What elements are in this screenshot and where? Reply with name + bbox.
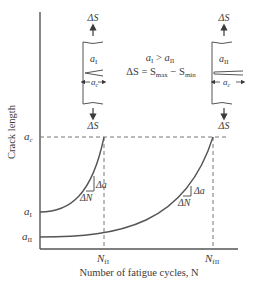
tick-label-aI: aI [24,205,33,219]
curve-specimen-I [40,137,104,212]
tick-label-nf2: NfII [204,252,220,266]
svg-text:ac: ac [91,77,99,88]
specimen-I: ΔS aI ac ΔS [83,12,104,131]
tick-label-ac: ac [24,130,34,144]
curve-specimen-II [40,137,213,237]
delta-n-label-II: ΔN [177,197,192,208]
stress-bottom-label-I: ΔS [87,120,99,131]
delta-n-label-I: ΔN [79,192,94,203]
relation-inequality: aI > aII [146,52,175,65]
svg-text:aII: aII [219,53,229,66]
tick-label-nf1: NfI [96,252,110,266]
fatigue-diagram: ac aI aII NfI NfII Number of fatigue cyc… [0,0,257,286]
svg-text:ac: ac [223,77,231,88]
stress-top-label-II: ΔS [218,12,230,23]
delta-a-label-II: Δa [193,185,205,196]
y-axis-label: Crack length [6,104,17,159]
delta-a-label-I: Δa [95,179,107,190]
specimen-II: ΔS aII ac ΔS [212,12,243,131]
stress-top-label-I: ΔS [87,12,99,23]
x-axis-label: Number of fatigue cycles, N [79,267,199,278]
relation-stress-range: ΔS = Smax − Smin [126,66,196,79]
stress-bottom-label-II: ΔS [218,120,230,131]
tick-label-aII: aII [22,230,33,244]
svg-text:aI: aI [90,53,98,66]
